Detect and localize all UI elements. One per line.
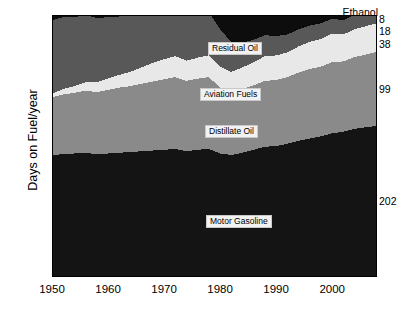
- x-axis-tick-labels: 195019601970198019902000: [0, 0, 408, 309]
- series-label-distillate-oil: Distillate Oil: [205, 125, 258, 138]
- series-label-aviation-fuels: Aviation Fuels: [200, 88, 261, 101]
- x-tick-1980: 1980: [207, 284, 233, 296]
- end-value-distillate-oil: 99: [379, 84, 391, 95]
- x-tick-1990: 1990: [263, 284, 289, 296]
- end-value-aviation-fuels: 38: [379, 39, 391, 50]
- ethanol-annotation-label: Ethanol: [342, 7, 378, 18]
- x-tick-1950: 1950: [39, 284, 65, 296]
- x-tick-1960: 1960: [95, 284, 121, 296]
- x-tick-2000: 2000: [319, 284, 345, 296]
- end-value-motor-gasoline: 202: [379, 196, 397, 207]
- series-label-motor-gasoline: Motor Gasoline: [206, 215, 272, 228]
- end-value-residual-oil: 18: [379, 26, 391, 37]
- stacked-area-chart: Days on Fuel/year 050100150200250300350 …: [0, 0, 408, 309]
- series-label-residual-oil: Residual Oil: [208, 42, 262, 55]
- x-tick-1970: 1970: [151, 284, 177, 296]
- end-value-ethanol: 8: [379, 14, 385, 25]
